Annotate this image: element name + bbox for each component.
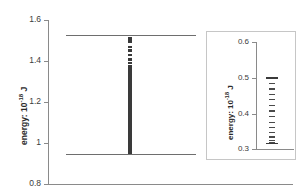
inset-data-point (269, 105, 275, 106)
inset-data-point (269, 136, 275, 137)
inset-data-point (269, 116, 275, 117)
inset-data-point (269, 83, 275, 84)
inset-lower-bound (266, 143, 278, 145)
inset-data-point (269, 127, 275, 128)
data-point (128, 49, 132, 52)
data-point (128, 54, 132, 57)
data-point (128, 58, 132, 61)
inset-data-point (269, 88, 275, 89)
inset-data-point (269, 140, 275, 141)
inset-data-point (269, 110, 275, 111)
inset-data-point (269, 122, 275, 123)
chart-figure: energy: 10-18 J 1.6 1.4 1.2 1 0.8 energy… (0, 0, 302, 195)
data-point (128, 152, 132, 155)
inset-data-series (207, 32, 297, 161)
inset-data-point (269, 132, 275, 133)
inset-data-point (269, 94, 275, 95)
inset-data-point (269, 99, 275, 100)
inset-upper-bound (266, 77, 278, 79)
inset-panel: energy: 10-18 J 0.6 0.5 0.4 0.3 (206, 31, 296, 160)
data-point (128, 40, 132, 43)
data-point (128, 62, 132, 65)
data-point (128, 46, 132, 49)
